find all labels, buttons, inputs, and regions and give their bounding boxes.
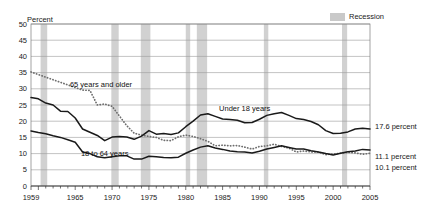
end-label-under18: 17.6 percent	[375, 122, 417, 131]
x-axis: 1959196519701975198019851990199520002005	[23, 186, 379, 202]
y-tick-label: 45	[19, 36, 27, 45]
x-tick-label: 1959	[23, 193, 40, 202]
x-tick-label: 1970	[104, 193, 121, 202]
y-tick-label: 50	[19, 20, 27, 29]
poverty-rate-chart: 05101520253035404550 1959196519701975198…	[0, 0, 431, 219]
x-tick-label: 2005	[362, 193, 379, 202]
x-tick-label: 1995	[288, 193, 305, 202]
series-annotation: 65 years and older	[70, 80, 133, 89]
chart-canvas: 05101520253035404550 1959196519701975198…	[0, 0, 431, 219]
end-label-older: 10.1 percent	[375, 163, 417, 172]
y-tick-label: 25	[19, 101, 27, 110]
legend-label-recession: Recession	[349, 12, 384, 21]
y-tick-label: 5	[23, 165, 27, 174]
x-tick-label: 2000	[325, 193, 342, 202]
end-label-adults: 11.1 percent	[375, 152, 416, 161]
recession-swatch	[330, 13, 345, 21]
y-tick-labels: 05101520253035404550	[19, 20, 27, 191]
y-tick-label: 20	[19, 117, 27, 126]
series-annotations: 65 years and olderUnder 18 years18 to 64…	[70, 80, 271, 158]
y-tick-label: 10	[19, 149, 27, 158]
series-annotation: Under 18 years	[219, 104, 271, 113]
y-tick-label: 40	[19, 52, 27, 61]
x-tick-label: 1985	[214, 193, 231, 202]
x-tick-label: 1990	[251, 193, 268, 202]
series-annotation: 18 to 64 years	[81, 149, 129, 158]
y-tick-label: 35	[19, 68, 27, 77]
y-axis-title: Percent	[27, 15, 53, 24]
y-tick-label: 30	[19, 84, 27, 93]
y-tick-label: 15	[19, 133, 27, 142]
y-tick-label: 0	[23, 182, 27, 191]
x-tick-label: 1975	[141, 193, 158, 202]
x-tick-label: 1965	[67, 193, 84, 202]
x-tick-label: 1980	[177, 193, 194, 202]
legend: Recession	[330, 12, 384, 21]
